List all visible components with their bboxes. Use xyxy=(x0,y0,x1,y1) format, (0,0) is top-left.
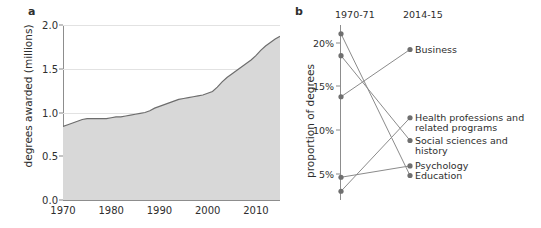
panel-a-x-axis-line xyxy=(63,200,280,201)
data-point-dot xyxy=(407,173,412,178)
data-point-dot xyxy=(407,115,412,120)
data-point-dot xyxy=(338,31,343,36)
panel-a-x-tick-label: 1970 xyxy=(50,205,75,216)
data-point-dot xyxy=(407,163,412,168)
figure-container: a degrees awarded (millions) 2.0 1.5 1.0… xyxy=(0,0,541,228)
slope-line xyxy=(341,166,410,177)
data-point-dot xyxy=(338,94,343,99)
panel-b-plot-area: 5%10%15%20% xyxy=(340,25,415,200)
panel-b-y-tick-label: 5% xyxy=(319,168,334,179)
panel-a-x-tick-label: 1990 xyxy=(147,205,172,216)
panel-b-slope-series xyxy=(340,25,415,200)
panel-a-y-tick-label: 1.0 xyxy=(42,107,58,118)
panel-a-y-tick-label: 1.5 xyxy=(42,63,58,74)
panel-a-y-tick-label: 2.0 xyxy=(42,20,58,31)
panel-b-column-header-right: 2014-15 xyxy=(403,9,443,20)
panel-a-x-tick-label: 1980 xyxy=(98,205,123,216)
panel-b-y-tick-label: 20% xyxy=(313,37,334,48)
slope-line xyxy=(341,50,410,97)
series-label: Social sciences and history xyxy=(415,135,508,156)
panel-b: b 1970-71 2014-15 proportion of degrees … xyxy=(290,0,541,228)
panel-a-y-axis-label: degrees awarded (millions) xyxy=(22,6,34,186)
panel-b-y-axis-label: proportion of degrees xyxy=(304,44,316,199)
data-point-dot xyxy=(338,53,343,58)
series-label: Education xyxy=(415,170,462,181)
data-point-dot xyxy=(338,175,343,180)
panel-a-plot-area: 2.0 1.5 1.0 0.5 0.0 1970 1980 1990 2000 … xyxy=(63,25,280,200)
panel-a: a degrees awarded (millions) 2.0 1.5 1.0… xyxy=(0,0,290,228)
series-label: Psychology xyxy=(415,161,468,172)
panel-b-letter: b xyxy=(295,5,303,18)
series-label: Health professions and related programs xyxy=(415,113,524,134)
panel-a-x-tick-label: 2010 xyxy=(243,205,268,216)
panel-b-column-header-left: 1970-71 xyxy=(335,9,375,20)
panel-a-y-tick-label: 0.5 xyxy=(42,151,58,162)
panel-b-y-tick-label: 15% xyxy=(313,81,334,92)
slope-line xyxy=(341,56,410,141)
panel-a-area-series xyxy=(63,25,280,200)
data-point-dot xyxy=(407,138,412,143)
panel-a-y-tick-label: 0.0 xyxy=(42,195,58,206)
panel-b-y-tick-label: 10% xyxy=(313,125,334,136)
data-point-dot xyxy=(338,189,343,194)
series-label: Business xyxy=(415,44,457,55)
data-point-dot xyxy=(407,47,412,52)
panel-a-x-tick-label: 2000 xyxy=(195,205,220,216)
